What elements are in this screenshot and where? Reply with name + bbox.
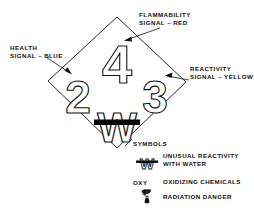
callout-reactivity: REACTIVITY SIGNAL – YELLOW bbox=[190, 65, 253, 81]
callout-flammability: FLAMMABILITY SIGNAL – RED bbox=[139, 11, 191, 27]
rating-reactivity-right: 3 bbox=[142, 71, 168, 123]
nfpa-diamond-diagram: 4 2 3 W W bbox=[0, 0, 254, 212]
rating-flammability-top: 4 bbox=[102, 34, 132, 94]
callout-flammability-line1: FLAMMABILITY bbox=[139, 11, 191, 19]
legend-text-radiation: RADIATION DANGER bbox=[163, 193, 232, 201]
legend-symbol-slot-water bbox=[133, 152, 163, 168]
legend-item-radiation-danger: RADIATION DANGER bbox=[133, 189, 232, 205]
legend-symbol-slot-oxy: OXY bbox=[133, 174, 163, 190]
callout-reactivity-line2: SIGNAL – YELLOW bbox=[190, 73, 253, 81]
legend-symbol-slot-radiation bbox=[133, 189, 163, 205]
legend-item-oxidizing-chemicals: OXY OXIDIZING CHEMICALS bbox=[133, 174, 241, 190]
legend-text-water: UNUSUAL REACTIVITY WITH WATER bbox=[163, 152, 239, 168]
legend-text-radiation-line1: RADIATION DANGER bbox=[163, 193, 232, 201]
rating-health-left: 2 bbox=[65, 71, 91, 123]
callout-flammability-line2: SIGNAL – RED bbox=[139, 19, 191, 27]
legend-text-water-line1: UNUSUAL REACTIVITY bbox=[163, 152, 239, 160]
legend-text-oxy-line1: OXIDIZING CHEMICALS bbox=[163, 178, 241, 186]
callout-reactivity-line1: REACTIVITY bbox=[190, 65, 253, 73]
legend-item-unusual-reactivity-with-water: UNUSUAL REACTIVITY WITH WATER bbox=[133, 152, 239, 168]
w-strikethrough-bar bbox=[94, 120, 140, 126]
legend-text-oxy: OXIDIZING CHEMICALS bbox=[163, 178, 241, 186]
callout-health-line2: SIGNAL – BLUE bbox=[10, 52, 63, 60]
special-symbol-w: W bbox=[97, 104, 137, 151]
legend-text-water-line2: WITH WATER bbox=[163, 160, 239, 168]
legend-code-oxy: OXY bbox=[133, 179, 148, 186]
callout-health-line1: HEALTH bbox=[10, 44, 63, 52]
callout-health: HEALTH SIGNAL – BLUE bbox=[10, 44, 63, 60]
legend-heading: SYMBOLS bbox=[133, 140, 167, 147]
